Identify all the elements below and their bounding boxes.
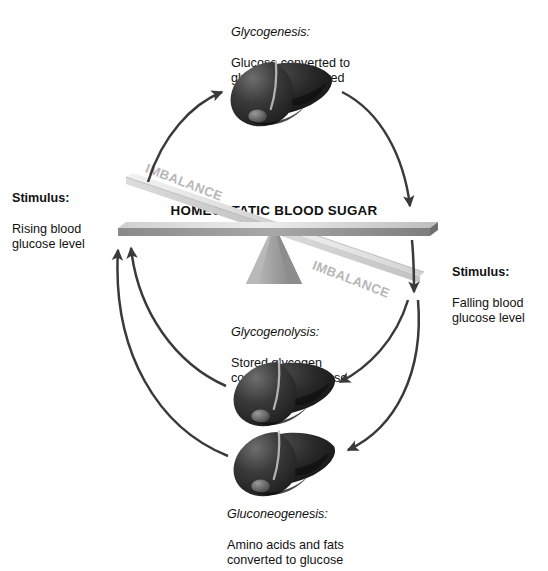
arrow-liver-top-to-beam-right <box>342 92 410 206</box>
arrow-beam-right-down <box>412 240 414 292</box>
arrow-to-liver-middle <box>340 300 408 382</box>
arrow-liver-bottom-to-beam-left <box>117 250 228 456</box>
arrow-to-liver-bottom <box>348 300 419 450</box>
arrow-beam-left-to-liver-top <box>148 92 222 182</box>
arrow-liver-middle-to-beam-left <box>131 248 226 386</box>
